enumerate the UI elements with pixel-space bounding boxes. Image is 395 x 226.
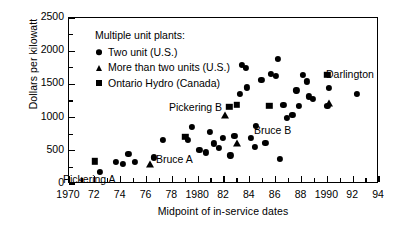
annotation-label: Bruce B [254, 124, 291, 136]
y-tick-minor [69, 100, 73, 101]
data-point [234, 102, 240, 108]
annotation-label: Darlington [326, 68, 374, 80]
x-tick-major [327, 176, 328, 182]
data-point [310, 96, 316, 102]
x-tick-label: 1980 [185, 188, 208, 200]
data-point [220, 135, 226, 141]
data-point [258, 77, 264, 83]
x-tick-label: 86 [269, 188, 281, 200]
data-point [275, 55, 281, 61]
x-tick-minor [314, 178, 315, 182]
x-axis-label: Midpoint of in-service dates [68, 205, 378, 217]
x-tick-label: 92 [346, 188, 358, 200]
data-point [189, 124, 195, 130]
data-point [248, 135, 254, 141]
y-tick-major [69, 150, 75, 151]
x-tick-label: 76 [140, 188, 152, 200]
plot-area: Pickering APickering BBruce ABruce BDarl… [68, 17, 378, 183]
x-tick-label: 1970 [56, 188, 79, 200]
data-point [289, 112, 295, 118]
data-point [236, 91, 242, 97]
annotation-label: Bruce A [156, 153, 193, 165]
legend-item-more-than-two: More than two units (U.S.) [95, 60, 230, 76]
x-tick-label: 84 [243, 188, 255, 200]
x-tick-minor [288, 178, 289, 182]
data-point [326, 85, 332, 91]
x-tick-major [249, 176, 250, 182]
y-tick-major [69, 17, 75, 18]
x-tick-major [172, 176, 173, 182]
data-point [233, 140, 241, 147]
x-tick-minor [133, 178, 134, 182]
x-tick-major [120, 176, 121, 182]
x-tick-major [378, 176, 379, 182]
data-point [296, 103, 302, 109]
x-tick-minor [236, 178, 237, 182]
data-point [92, 158, 98, 164]
x-tick-label: 74 [114, 188, 126, 200]
data-point [160, 137, 166, 143]
y-tick-major [69, 51, 75, 52]
x-tick-major [353, 176, 354, 182]
x-tick-major [301, 176, 302, 182]
x-tick-minor [159, 178, 160, 182]
x-tick-minor [365, 178, 366, 182]
legend: Multiple unit plants: Two unit (U.S.) Mo… [95, 28, 230, 91]
data-point [231, 133, 237, 139]
data-point [293, 87, 299, 93]
legend-label: More than two units (U.S.) [108, 60, 230, 76]
x-tick-label: 72 [88, 188, 100, 200]
y-tick-label: 2500 [6, 10, 64, 22]
data-point [182, 134, 188, 140]
data-point [146, 161, 154, 168]
y-tick-minor [69, 134, 73, 135]
x-tick-label: 88 [295, 188, 307, 200]
data-point [244, 84, 250, 90]
annotation-label: Pickering A [63, 173, 116, 185]
y-tick-label: 1000 [6, 110, 64, 122]
triangle-marker-icon [95, 62, 108, 74]
data-point [276, 156, 282, 162]
y-tick-label: 2000 [6, 43, 64, 55]
data-point [273, 73, 279, 79]
data-point [262, 139, 268, 145]
legend-item-two-unit: Two unit (U.S.) [95, 45, 230, 61]
data-point [125, 151, 131, 157]
data-point [203, 149, 209, 155]
x-tick-major [198, 176, 199, 182]
data-point [227, 152, 233, 158]
annotation-label: Pickering B [169, 101, 222, 113]
y-tick-minor [69, 167, 73, 168]
y-tick-label: 0 [6, 176, 64, 188]
data-point [354, 91, 360, 97]
data-point [196, 147, 202, 153]
y-tick-label: 500 [6, 143, 64, 155]
data-point [221, 111, 229, 118]
x-tick-minor [340, 178, 341, 182]
data-point [243, 65, 249, 71]
data-point [266, 102, 272, 108]
x-tick-label: 82 [217, 188, 229, 200]
data-point [132, 159, 138, 165]
x-tick-major [275, 176, 276, 182]
y-tick-label: 1500 [6, 76, 64, 88]
circle-marker-icon [95, 46, 108, 58]
x-tick-label: 1990 [315, 188, 338, 200]
legend-label: Two unit (U.S.) [108, 45, 177, 61]
x-tick-minor [185, 178, 186, 182]
data-point [280, 102, 286, 108]
data-point [252, 144, 258, 150]
x-tick-major [146, 176, 147, 182]
x-tick-minor [210, 178, 211, 182]
legend-title: Multiple unit plants: [95, 28, 230, 44]
data-point [304, 78, 310, 84]
x-tick-label: 78 [165, 188, 177, 200]
data-point [325, 99, 333, 106]
legend-item-ontario-hydro: Ontario Hydro (Canada) [95, 76, 230, 92]
y-tick-major [69, 117, 75, 118]
x-tick-major [223, 176, 224, 182]
data-point [207, 128, 213, 134]
legend-label: Ontario Hydro (Canada) [108, 76, 220, 92]
data-point [112, 159, 118, 165]
data-point [226, 104, 232, 110]
